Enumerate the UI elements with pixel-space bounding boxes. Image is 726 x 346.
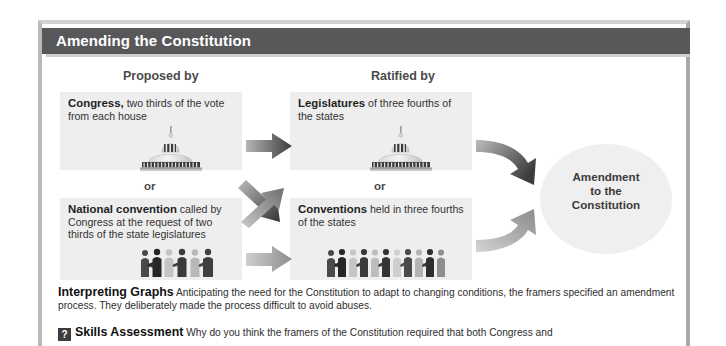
box-legislatures-text: Legislatures of three fourths of the sta… <box>298 97 466 122</box>
question-mark-icon: ? <box>58 328 71 341</box>
capitol-building-icon <box>359 126 443 172</box>
box-conventions-text: Conventions held in three fourths of the… <box>298 203 466 228</box>
column-heading-proposed-by: Proposed by <box>123 69 199 83</box>
result-amendment-text: Amendment to the Constitution <box>540 170 672 212</box>
column-heading-ratified-by: Ratified by <box>371 69 435 83</box>
people-group-icon <box>140 247 218 277</box>
people-group-icon <box>326 247 446 277</box>
caption-interpreting-graphs: Interpreting Graphs Anticipating the nee… <box>58 286 688 313</box>
or-separator-left: or <box>144 180 156 192</box>
result-amendment-circle: Amendment to the Constitution <box>540 144 672 254</box>
figure-page: Amending the Constitution Proposed by Ra… <box>0 0 726 346</box>
box-national-convention-lead: National convention <box>68 203 177 215</box>
box-conventions-lead: Conventions <box>298 203 367 215</box>
result-line-1: Amendment <box>540 170 672 184</box>
skills-assessment-label: Skills Assessment <box>75 325 183 339</box>
figure-title-bar: Amending the Constitution <box>42 28 690 54</box>
skills-assessment-text: Why do you think the framers of the Cons… <box>183 327 552 338</box>
box-congress-text: Congress, two thirds of the vote from ea… <box>68 97 236 122</box>
skills-assessment-row: ?Skills Assessment Why do you think the … <box>58 326 688 341</box>
box-congress-lead: Congress, <box>68 97 124 109</box>
caption-label: Interpreting Graphs <box>58 285 174 299</box>
box-national-convention-text: National convention called by Congress a… <box>68 203 236 241</box>
capitol-building-icon <box>129 126 213 172</box>
result-line-2: to the <box>540 184 672 198</box>
figure-title: Amending the Constitution <box>56 32 251 49</box>
box-legislatures-lead: Legislatures <box>298 97 365 109</box>
result-line-3: Constitution <box>540 198 672 212</box>
or-separator-right: or <box>374 180 386 192</box>
title-bar-shadow <box>46 54 690 57</box>
